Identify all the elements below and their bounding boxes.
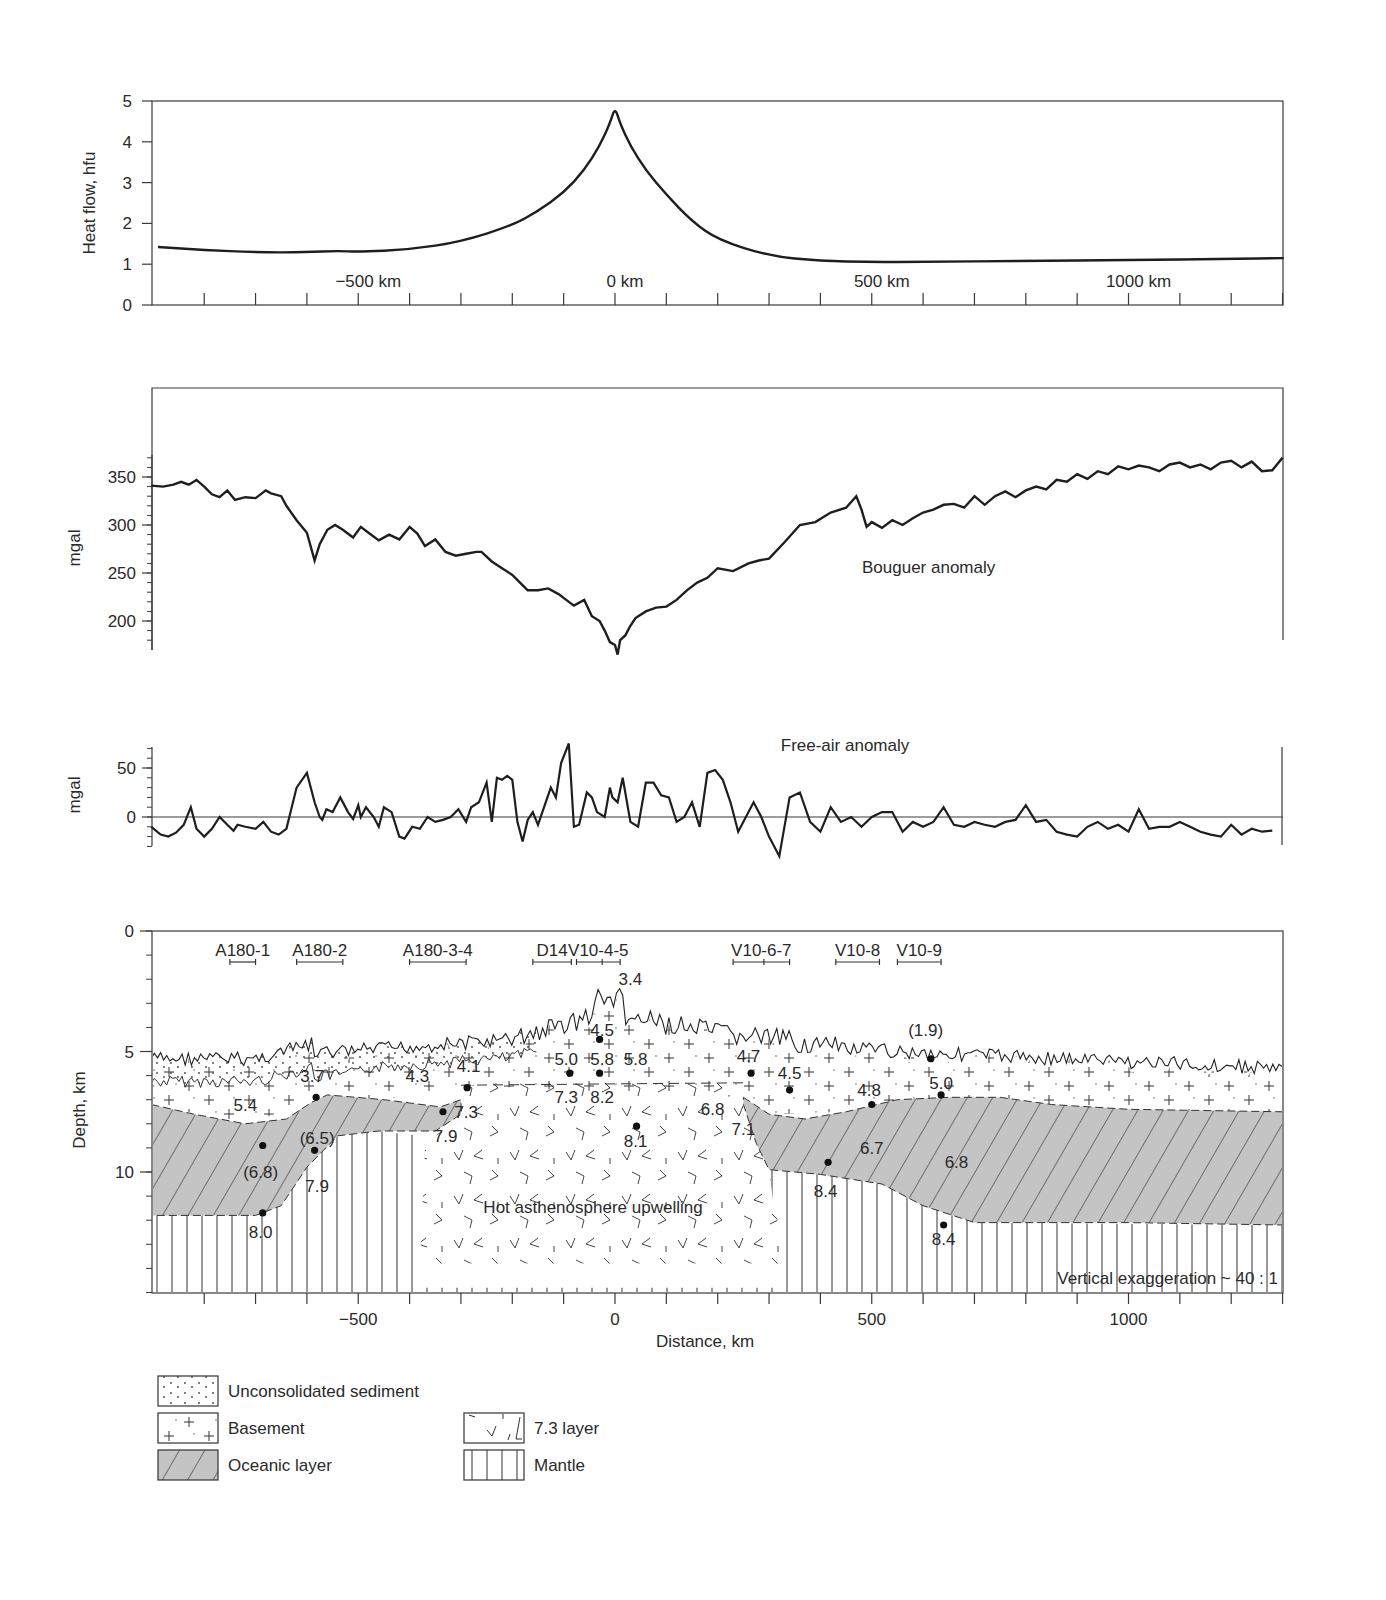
x-tick-label: 1000 xyxy=(1110,1310,1148,1329)
profile-label: A180-2 xyxy=(292,941,347,960)
velocity-label: 7.3 xyxy=(454,1103,478,1122)
legend: Unconsolidated sediment Basement Oceanic… xyxy=(158,1376,600,1480)
y-tick-label: 5 xyxy=(123,92,132,111)
bouguer-line xyxy=(151,458,1282,655)
free-air-annotation: Free-air anomaly xyxy=(781,736,910,755)
basement-swatch xyxy=(158,1413,218,1443)
station-dot xyxy=(786,1086,793,1093)
station-dot xyxy=(747,1070,754,1077)
velocity-label: (1.9) xyxy=(908,1021,943,1040)
y-tick-label: 0 xyxy=(125,922,134,941)
legend-item-oceanic: Oceanic layer xyxy=(158,1450,332,1480)
x-tick-label: 0 xyxy=(610,1310,619,1329)
legend-label-basement: Basement xyxy=(228,1419,305,1438)
velocity-label: (6.5) xyxy=(300,1129,335,1148)
velocity-label: 7.9 xyxy=(434,1127,458,1146)
station-dot xyxy=(633,1123,640,1130)
profile-label: V10-9 xyxy=(897,941,942,960)
legend-item-sediment: Unconsolidated sediment xyxy=(158,1376,419,1406)
oceanic-swatch xyxy=(158,1450,218,1480)
profile-label: V10-8 xyxy=(835,941,880,960)
station-dot xyxy=(927,1055,934,1062)
legend-label-mantle: Mantle xyxy=(534,1456,585,1475)
velocity-label: 5.4 xyxy=(233,1096,257,1115)
y-tick-label: 2 xyxy=(123,214,132,233)
sediment-swatch xyxy=(158,1376,218,1406)
asthenosphere-label: Hot asthenosphere upwelling xyxy=(483,1198,702,1217)
depth-y-axis: 0510 xyxy=(115,922,152,1293)
bouguer-y-label: mgal xyxy=(65,530,84,567)
velocity-label: 7.1 xyxy=(732,1120,756,1139)
station-dot xyxy=(868,1101,875,1108)
distance-axis-label: Distance, km xyxy=(656,1332,754,1351)
station-dot xyxy=(596,1036,603,1043)
velocity-label: 7.3 xyxy=(554,1088,578,1107)
y-tick-label: 300 xyxy=(108,516,136,535)
profile-label: V10-6-7 xyxy=(731,941,791,960)
heat-flow-line xyxy=(158,111,1284,262)
y-tick-label: 5 xyxy=(125,1043,134,1062)
legend-item-basement: Basement xyxy=(158,1413,305,1443)
x-tick-label: 500 xyxy=(858,1310,886,1329)
velocity-label: 6.8 xyxy=(945,1153,969,1172)
y-tick-label: 250 xyxy=(108,564,136,583)
bouguer-frame xyxy=(152,388,1283,650)
figure: 012345 −500 km0 km500 km1000 km Heat flo… xyxy=(0,0,1386,1600)
free-air-panel: 050 mgal Free-air anomaly xyxy=(65,736,1283,856)
velocity-label: 8.0 xyxy=(249,1223,273,1242)
velocity-label: (6.8) xyxy=(243,1163,278,1182)
y-tick-label: 200 xyxy=(108,612,136,631)
y-tick-label: 10 xyxy=(115,1163,134,1182)
legend-item-mantle: Mantle xyxy=(464,1450,585,1480)
x-tick-label: 1000 km xyxy=(1106,272,1171,291)
velocity-label: 4.5 xyxy=(778,1064,802,1083)
velocity-label: 3.4 xyxy=(619,970,643,989)
station-dot xyxy=(311,1147,318,1154)
station-dot xyxy=(937,1091,944,1098)
velocity-label: 5.0 xyxy=(929,1074,953,1093)
x-tick-label: −500 km xyxy=(335,272,401,291)
free-air-y-axis: 050 xyxy=(117,747,152,846)
velocity-label: 8.4 xyxy=(814,1182,838,1201)
station-dot xyxy=(259,1142,266,1149)
legend-label-oceanic: Oceanic layer xyxy=(228,1456,332,1475)
free-air-y-label: mgal xyxy=(65,777,84,814)
x-tick-label: 0 km xyxy=(607,272,644,291)
y-tick-label: 350 xyxy=(108,468,136,487)
profile-label: V10-4-5 xyxy=(568,941,628,960)
velocity-label: 4.7 xyxy=(737,1047,761,1066)
free-air-line xyxy=(151,744,1272,857)
legend-item-layer73: 7.3 layer xyxy=(464,1413,600,1443)
distance-x-axis: −50005001000 xyxy=(204,1293,1282,1329)
velocity-label: 4.3 xyxy=(405,1067,429,1086)
station-dot xyxy=(259,1209,266,1216)
heat-flow-y-axis: 012345 xyxy=(123,92,152,315)
bouguer-panel: 200250300350 mgal Bouguer anomaly xyxy=(65,388,1283,655)
bouguer-y-axis: 200250300350 xyxy=(108,455,152,650)
velocity-label: 4.1 xyxy=(457,1057,481,1076)
x-tick-label: −500 xyxy=(339,1310,377,1329)
y-tick-label: 1 xyxy=(123,255,132,274)
vertical-exaggeration-note: Vertical exaggeration ~ 40 : 1 xyxy=(1057,1269,1278,1288)
legend-label-layer73: 7.3 layer xyxy=(534,1419,600,1438)
velocity-label: 8.4 xyxy=(932,1230,956,1249)
y-tick-label: 0 xyxy=(127,808,136,827)
velocity-label: 8.1 xyxy=(624,1132,648,1151)
velocity-label: 6.7 xyxy=(860,1139,884,1158)
profile-label: A180-1 xyxy=(215,941,270,960)
velocity-label: 8.2 xyxy=(590,1088,614,1107)
velocity-label: 4.8 xyxy=(857,1081,881,1100)
seismic-profiles: A180-1A180-2A180-3-4D14V10-4-5V10-6-7V10… xyxy=(215,941,942,965)
velocity-label: 5.0 xyxy=(554,1050,578,1069)
depth-axis-label: Depth, km xyxy=(70,1071,89,1148)
y-tick-label: 4 xyxy=(123,133,132,152)
legend-label-sediment: Unconsolidated sediment xyxy=(228,1382,419,1401)
bouguer-annotation: Bouguer anomaly xyxy=(862,558,996,577)
mantle-swatch xyxy=(464,1450,524,1480)
x-tick-label: 500 km xyxy=(854,272,910,291)
station-dot xyxy=(825,1159,832,1166)
profile-label: A180-3-4 xyxy=(403,941,473,960)
station-dot xyxy=(566,1070,573,1077)
velocity-label: 6.8 xyxy=(701,1100,725,1119)
heat-flow-y-label: Heat flow, hfu xyxy=(80,151,99,254)
